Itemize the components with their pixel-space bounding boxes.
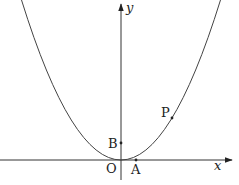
point-b xyxy=(120,142,123,145)
origin-label: O xyxy=(106,161,117,176)
point-a-label: A xyxy=(130,162,141,177)
point-a xyxy=(135,159,138,162)
point-b-label: B xyxy=(108,136,118,151)
point-p xyxy=(171,117,174,120)
diagram-canvas: y x O A B P xyxy=(0,0,239,185)
x-axis-label: x xyxy=(214,158,222,173)
point-p-label: P xyxy=(161,105,170,120)
y-axis-label: y xyxy=(125,0,134,15)
